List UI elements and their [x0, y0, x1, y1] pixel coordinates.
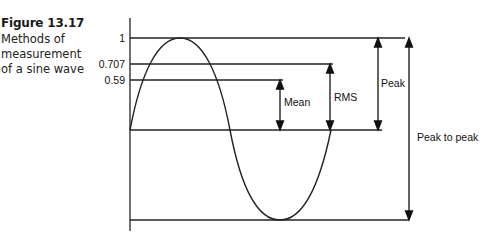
peak-label: Peak — [381, 77, 406, 89]
tick-label-1: 1 — [119, 32, 125, 44]
tick-label-059: 0.59 — [105, 74, 126, 86]
tick-label-0707: 0.707 — [99, 58, 125, 70]
sine-wave-curve — [130, 38, 331, 220]
mean-label: Mean — [284, 96, 310, 108]
peak-to-peak-label: Peak to peak — [417, 131, 479, 143]
sine-wave-diagram: 1 0.707 0.59 Mean RMS Peak Peak to peak — [0, 0, 489, 236]
rms-label: RMS — [334, 91, 357, 103]
